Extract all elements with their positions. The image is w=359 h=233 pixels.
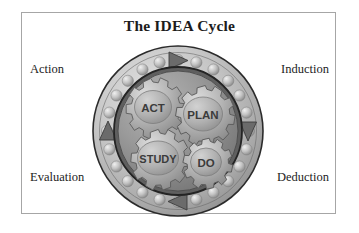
cycle-wheel-diagram: ACT PLAN STUDY bbox=[92, 45, 264, 217]
gear-label-plan: PLAN bbox=[187, 109, 218, 121]
corner-label-evaluation: Evaluation bbox=[30, 170, 84, 185]
corner-label-induction: Induction bbox=[281, 62, 329, 77]
gear-label-study: STUDY bbox=[139, 153, 177, 165]
gear-label-act: ACT bbox=[141, 102, 165, 114]
corner-label-action: Action bbox=[30, 62, 64, 77]
idea-cycle-figure: The IDEA Cycle Action Induction Evaluati… bbox=[0, 0, 359, 233]
corner-label-deduction: Deduction bbox=[277, 170, 329, 185]
page-title: The IDEA Cycle bbox=[0, 17, 359, 35]
gear-label-do: DO bbox=[197, 157, 214, 169]
